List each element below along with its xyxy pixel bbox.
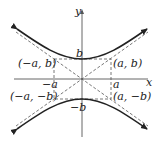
vertex-label-neg-b: −b bbox=[70, 101, 86, 114]
y-axis-label: y bbox=[74, 5, 82, 18]
corner-label-bottom-left: (−a, −b) bbox=[10, 90, 58, 103]
corner-label-bottom-right: (a, −b) bbox=[113, 90, 151, 103]
x-axis-label: x bbox=[146, 76, 153, 89]
hyperbola-diagram: y x b −b −a a (−a, b) (a, b) (−a, −b) (a… bbox=[0, 0, 162, 144]
corner-label-top-right: (a, b) bbox=[113, 57, 142, 70]
vertex-label-b: b bbox=[76, 47, 83, 60]
corner-label-top-left: (−a, b) bbox=[18, 57, 56, 70]
